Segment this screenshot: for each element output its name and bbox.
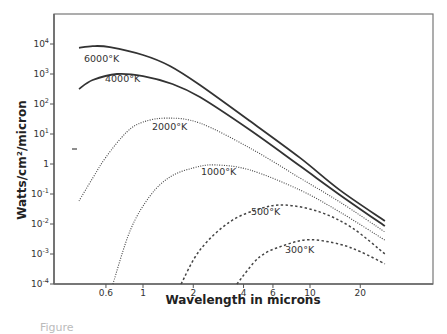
y-tick-label: 10-1 <box>31 187 49 199</box>
curve-label-6000k: 6000°K <box>84 53 120 64</box>
figure-caption: Figure <box>40 321 74 334</box>
y-tick-label: 10-2 <box>31 217 49 229</box>
curve-label-500k: 500°K <box>251 206 281 217</box>
y-tick-label: 103 <box>33 67 49 79</box>
y-tick-label: 104 <box>33 37 49 49</box>
x-tick-label: 0.6 <box>99 288 114 298</box>
x-tick-label: 1 <box>140 288 146 298</box>
curve-4000k <box>79 74 385 226</box>
curve-label-300k: 300°K <box>285 244 315 255</box>
y-tick-label: 1 <box>43 159 49 169</box>
y-axis-title: Watts/cm²/micron <box>15 100 29 220</box>
curve-label-2000k: 2000°K <box>152 121 188 132</box>
y-tick-label: 101 <box>33 127 49 139</box>
y-tick-label: 10-4 <box>31 277 49 289</box>
x-axis-title: Wavelength in microns <box>165 293 320 307</box>
curve-labels: 6000°K4000°K2000°K1000°K500°K300°K <box>84 53 315 255</box>
y-tick-label: 102 <box>33 97 49 109</box>
curve-1000k <box>113 165 385 284</box>
y-axis-ticks: 104103102101110-110-210-310-4 <box>31 37 54 289</box>
curve-500k <box>181 205 385 284</box>
x-tick-label: 20 <box>355 288 367 298</box>
curve-label-1000k: 1000°K <box>201 166 237 177</box>
curve-label-4000k: 4000°K <box>105 73 141 84</box>
y-tick-label: 10-3 <box>31 247 49 259</box>
